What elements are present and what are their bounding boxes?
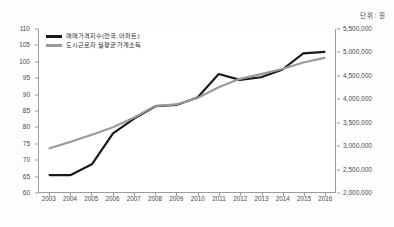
left-axis-tick-label: 85	[23, 108, 30, 115]
legend-swatch-icon	[46, 44, 62, 47]
left-axis-tick-label: 65	[23, 173, 30, 180]
series-lines	[39, 29, 335, 192]
left-axis-tick-label: 70	[23, 157, 30, 164]
legend-swatch-icon	[46, 35, 62, 38]
right-axis-tick-label: 5,500,000	[343, 26, 372, 33]
plot-area	[38, 29, 336, 193]
right-axis-tick-label: 3,500,000	[343, 119, 372, 126]
legend-label: 매매가격지수(전국, 아파트)	[66, 33, 140, 39]
left-axis-tick-label: 80	[23, 124, 30, 131]
series-line-1	[50, 52, 325, 175]
right-axis-tick-label: 4,000,000	[343, 96, 372, 103]
legend-item: 도시근로자 월평균 가계소득	[46, 42, 141, 48]
left-axis-tick-label: 75	[23, 141, 30, 148]
right-axis-tick-mark	[337, 122, 340, 123]
unit-caption: 단위 : 원	[360, 10, 385, 20]
x-axis-tick-label: 2013	[254, 196, 268, 202]
right-axis-tick-mark	[337, 29, 340, 30]
x-axis-tick-label: 2003	[42, 196, 56, 202]
x-axis-tick-label: 2006	[105, 196, 119, 202]
chart-legend: 매매가격지수(전국, 아파트)도시근로자 월평균 가계소득	[46, 33, 141, 48]
x-axis-tick-label: 2014	[276, 196, 290, 202]
x-axis-tick-label: 2009	[169, 196, 183, 202]
right-axis-tick-label: 2,500,000	[343, 166, 372, 173]
x-axis-tick-label: 2008	[148, 196, 162, 202]
chart-container: 단위 : 원 1101051009590858075706560 5,500,0…	[0, 0, 394, 227]
left-axis-labels: 1101051009590858075706560	[0, 29, 34, 193]
left-axis-tick-label: 90	[23, 91, 30, 98]
x-axis-tick-label: 2012	[233, 196, 247, 202]
right-axis-labels: 5,500,0005,000,0004,500,0004,000,0003,50…	[339, 29, 389, 193]
x-axis-tick-label: 2015	[297, 196, 311, 202]
left-axis-tick-label: 95	[23, 75, 30, 82]
right-axis-tick-label: 4,500,000	[343, 73, 372, 80]
x-axis-tick-label: 2011	[212, 196, 226, 202]
right-axis-tick-label: 3,000,000	[343, 143, 372, 150]
right-axis-tick-label: 2,000,000	[343, 190, 372, 197]
legend-item: 매매가격지수(전국, 아파트)	[46, 33, 141, 39]
x-axis-labels: 2003200420052006200720082009201020112012…	[38, 196, 336, 210]
left-axis-tick-label: 60	[23, 190, 30, 197]
right-axis-tick-mark	[337, 193, 340, 194]
x-axis-tick-label: 2016	[318, 196, 332, 202]
left-axis-tick-label: 100	[19, 59, 30, 66]
series-line-2	[50, 58, 325, 148]
right-axis-tick-mark	[337, 75, 340, 76]
left-axis-tick-label: 105	[19, 42, 30, 49]
x-axis-tick-label: 2004	[63, 196, 77, 202]
right-axis-tick-mark	[337, 52, 340, 53]
right-axis-tick-mark	[337, 146, 340, 147]
right-axis-tick-mark	[337, 99, 340, 100]
left-axis-tick-label: 110	[20, 26, 30, 33]
x-axis-tick-label: 2007	[127, 196, 141, 202]
x-axis-tick-label: 2010	[191, 196, 205, 202]
x-axis-tick-label: 2005	[84, 196, 98, 202]
legend-label: 도시근로자 월평균 가계소득	[66, 42, 141, 48]
right-axis-tick-mark	[337, 169, 340, 170]
right-axis-tick-label: 5,000,000	[343, 49, 372, 56]
